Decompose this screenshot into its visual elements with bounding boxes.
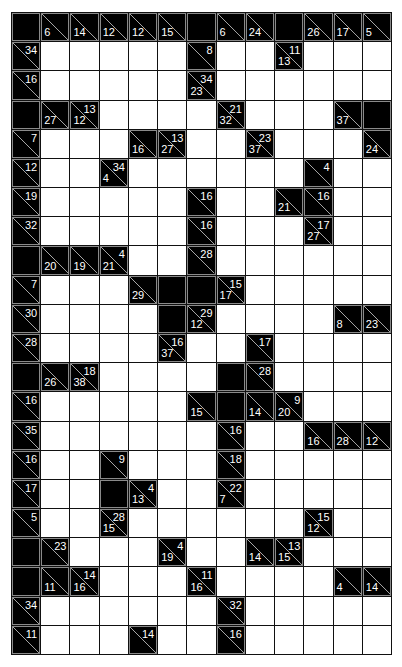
entry-cell[interactable]: [334, 217, 362, 245]
entry-cell[interactable]: [334, 42, 362, 70]
entry-cell[interactable]: [275, 130, 303, 158]
entry-cell[interactable]: [246, 597, 274, 625]
entry-cell[interactable]: [304, 567, 332, 595]
entry-cell[interactable]: [129, 538, 157, 566]
entry-cell[interactable]: [334, 626, 362, 654]
entry-cell[interactable]: [217, 159, 245, 187]
entry-cell[interactable]: [70, 188, 98, 216]
entry-cell[interactable]: [334, 509, 362, 537]
entry-cell[interactable]: [304, 276, 332, 304]
entry-cell[interactable]: [187, 538, 215, 566]
entry-cell[interactable]: [158, 42, 186, 70]
entry-cell[interactable]: [246, 159, 274, 187]
entry-cell[interactable]: [70, 334, 98, 362]
entry-cell[interactable]: [41, 71, 69, 99]
entry-cell[interactable]: [334, 363, 362, 391]
entry-cell[interactable]: [100, 71, 128, 99]
entry-cell[interactable]: [275, 451, 303, 479]
entry-cell[interactable]: [100, 538, 128, 566]
entry-cell[interactable]: [246, 422, 274, 450]
entry-cell[interactable]: [363, 217, 391, 245]
entry-cell[interactable]: [158, 626, 186, 654]
entry-cell[interactable]: [246, 71, 274, 99]
entry-cell[interactable]: [363, 188, 391, 216]
entry-cell[interactable]: [187, 451, 215, 479]
entry-cell[interactable]: [129, 422, 157, 450]
entry-cell[interactable]: [41, 217, 69, 245]
entry-cell[interactable]: [275, 305, 303, 333]
entry-cell[interactable]: [334, 130, 362, 158]
entry-cell[interactable]: [129, 159, 157, 187]
entry-cell[interactable]: [275, 567, 303, 595]
entry-cell[interactable]: [217, 509, 245, 537]
entry-cell[interactable]: [275, 422, 303, 450]
entry-cell[interactable]: [70, 276, 98, 304]
entry-cell[interactable]: [304, 597, 332, 625]
entry-cell[interactable]: [363, 451, 391, 479]
entry-cell[interactable]: [363, 509, 391, 537]
entry-cell[interactable]: [363, 392, 391, 420]
entry-cell[interactable]: [187, 159, 215, 187]
entry-cell[interactable]: [70, 305, 98, 333]
entry-cell[interactable]: [100, 422, 128, 450]
entry-cell[interactable]: [70, 71, 98, 99]
entry-cell[interactable]: [129, 101, 157, 129]
entry-cell[interactable]: [187, 130, 215, 158]
entry-cell[interactable]: [246, 188, 274, 216]
entry-cell[interactable]: [129, 509, 157, 537]
entry-cell[interactable]: [41, 159, 69, 187]
entry-cell[interactable]: [217, 246, 245, 274]
entry-cell[interactable]: [41, 334, 69, 362]
entry-cell[interactable]: [334, 392, 362, 420]
entry-cell[interactable]: [158, 422, 186, 450]
entry-cell[interactable]: [334, 597, 362, 625]
entry-cell[interactable]: [275, 246, 303, 274]
entry-cell[interactable]: [41, 480, 69, 508]
entry-cell[interactable]: [334, 246, 362, 274]
entry-cell[interactable]: [275, 509, 303, 537]
entry-cell[interactable]: [275, 71, 303, 99]
entry-cell[interactable]: [70, 422, 98, 450]
entry-cell[interactable]: [275, 217, 303, 245]
entry-cell[interactable]: [129, 451, 157, 479]
entry-cell[interactable]: [41, 509, 69, 537]
entry-cell[interactable]: [158, 159, 186, 187]
entry-cell[interactable]: [304, 71, 332, 99]
entry-cell[interactable]: [217, 217, 245, 245]
entry-cell[interactable]: [129, 42, 157, 70]
entry-cell[interactable]: [70, 130, 98, 158]
entry-cell[interactable]: [129, 334, 157, 362]
entry-cell[interactable]: [129, 567, 157, 595]
entry-cell[interactable]: [70, 597, 98, 625]
entry-cell[interactable]: [363, 597, 391, 625]
entry-cell[interactable]: [129, 305, 157, 333]
entry-cell[interactable]: [304, 334, 332, 362]
entry-cell[interactable]: [334, 334, 362, 362]
entry-cell[interactable]: [41, 626, 69, 654]
entry-cell[interactable]: [275, 101, 303, 129]
entry-cell[interactable]: [70, 451, 98, 479]
entry-cell[interactable]: [246, 626, 274, 654]
entry-cell[interactable]: [41, 42, 69, 70]
entry-cell[interactable]: [41, 392, 69, 420]
entry-cell[interactable]: [246, 217, 274, 245]
entry-cell[interactable]: [363, 42, 391, 70]
entry-cell[interactable]: [334, 451, 362, 479]
entry-cell[interactable]: [158, 363, 186, 391]
entry-cell[interactable]: [363, 71, 391, 99]
entry-cell[interactable]: [187, 626, 215, 654]
entry-cell[interactable]: [100, 101, 128, 129]
entry-cell[interactable]: [100, 363, 128, 391]
entry-cell[interactable]: [304, 451, 332, 479]
entry-cell[interactable]: [246, 305, 274, 333]
entry-cell[interactable]: [70, 480, 98, 508]
entry-cell[interactable]: [41, 451, 69, 479]
entry-cell[interactable]: [217, 130, 245, 158]
entry-cell[interactable]: [129, 71, 157, 99]
entry-cell[interactable]: [363, 159, 391, 187]
entry-cell[interactable]: [304, 130, 332, 158]
entry-cell[interactable]: [304, 480, 332, 508]
entry-cell[interactable]: [158, 597, 186, 625]
entry-cell[interactable]: [363, 334, 391, 362]
entry-cell[interactable]: [217, 567, 245, 595]
